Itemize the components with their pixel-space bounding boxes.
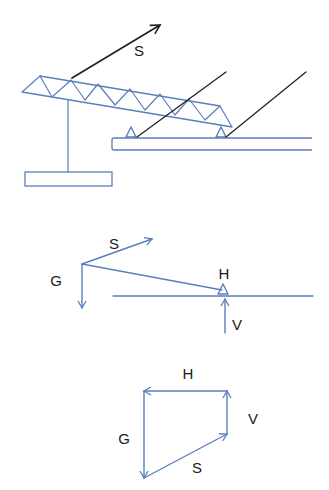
support-triangle-1 <box>126 127 136 137</box>
force-s-arrow <box>144 434 227 478</box>
label-v-fbd: V <box>232 317 242 332</box>
boom-line <box>82 264 222 290</box>
truss-bottom-chord <box>22 92 232 127</box>
counterweight-box <box>25 172 112 186</box>
free-body-diagram <box>82 239 313 333</box>
crane-truss-diagram <box>22 25 312 186</box>
label-s-top: S <box>134 43 144 58</box>
label-g-fbd: G <box>50 273 62 288</box>
base-plate <box>112 138 312 150</box>
label-s-polygon: S <box>192 460 202 475</box>
support-triangle-2 <box>216 127 226 137</box>
truss-top-chord <box>40 76 220 106</box>
label-h-polygon: H <box>183 366 194 381</box>
truss-web <box>22 76 232 127</box>
label-s-fbd: S <box>109 236 119 251</box>
label-h-fbd: H <box>219 266 230 281</box>
force-polygon-diagram <box>144 391 227 478</box>
rod-2 <box>226 72 306 137</box>
label-g-polygon: G <box>118 431 130 446</box>
diagram-canvas <box>0 0 329 490</box>
label-v-polygon: V <box>248 411 258 426</box>
force-s-arrow <box>72 25 160 78</box>
